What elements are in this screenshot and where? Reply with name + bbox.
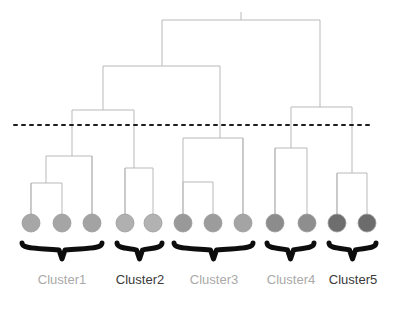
brace-cluster-3 xyxy=(174,243,253,259)
brace-cluster-1 xyxy=(22,243,102,259)
leaf-node-leaf-10[interactable] xyxy=(298,214,316,232)
dendrogram-figure: Cluster1Cluster2Cluster3Cluster4Cluster5 xyxy=(0,0,401,315)
leaf-node-leaf-4[interactable] xyxy=(116,214,134,232)
brace-cluster-2 xyxy=(117,243,162,259)
leaf-node-leaf-9[interactable] xyxy=(266,214,284,232)
leaf-node-leaf-6[interactable] xyxy=(174,214,192,232)
brace-cluster-4 xyxy=(267,243,314,259)
leaf-node-leaf-8[interactable] xyxy=(234,214,252,232)
leaf-node-leaf-2[interactable] xyxy=(53,214,71,232)
leaf-node-leaf-3[interactable] xyxy=(83,214,101,232)
leaf-node-leaf-5[interactable] xyxy=(144,214,162,232)
leaf-node-leaf-1[interactable] xyxy=(22,214,40,232)
leaf-node-leaf-7[interactable] xyxy=(204,214,222,232)
leaf-node-leaf-12[interactable] xyxy=(358,214,376,232)
brace-cluster-5 xyxy=(329,243,376,259)
dendrogram-links xyxy=(31,12,367,223)
cluster-braces xyxy=(22,243,376,259)
leaf-node-leaf-11[interactable] xyxy=(328,214,346,232)
dendrogram-canvas xyxy=(0,0,401,315)
dendrogram-leaf-nodes xyxy=(22,214,376,232)
